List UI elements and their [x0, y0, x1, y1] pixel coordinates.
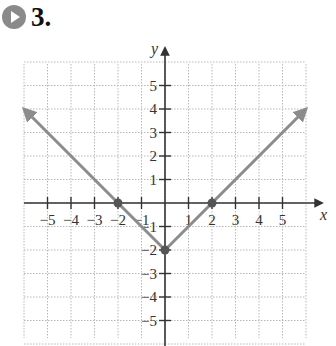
graph-point	[161, 246, 170, 255]
x-tick-label: −2	[110, 212, 126, 228]
y-tick-label: 3	[150, 125, 158, 141]
graph-chart: −5−4−3−2−112345−5−4−3−2−112345xy	[0, 0, 336, 346]
x-tick-label: 3	[232, 212, 240, 228]
y-tick-label: 2	[150, 148, 158, 164]
y-tick-label: −2	[141, 242, 157, 258]
y-tick-label: 1	[150, 172, 158, 188]
x-tick-label: 5	[279, 212, 287, 228]
x-tick-label: −5	[40, 212, 56, 228]
x-axis-label: x	[319, 206, 327, 223]
graph-point	[114, 199, 123, 208]
x-tick-label: 4	[255, 212, 263, 228]
graph-point	[208, 199, 217, 208]
y-tick-label: 5	[150, 78, 158, 94]
y-tick-label: −5	[141, 313, 157, 329]
y-tick-label: −3	[141, 266, 157, 282]
y-tick-label: −4	[141, 289, 157, 305]
y-axis-label: y	[149, 40, 159, 58]
x-tick-label: −4	[63, 212, 79, 228]
y-tick-label: 4	[150, 101, 158, 117]
x-tick-label: −3	[87, 212, 103, 228]
x-tick-label: 2	[208, 212, 216, 228]
